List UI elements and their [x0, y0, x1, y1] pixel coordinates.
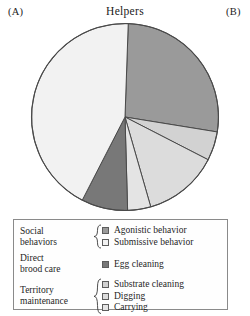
legend-group-label-line: Social — [20, 226, 92, 237]
pie-chart-svg — [30, 19, 220, 215]
curly-brace-icon — [92, 224, 102, 249]
legend-item-label: Digging — [114, 291, 145, 302]
legend-swatch — [102, 227, 109, 234]
legend-swatch — [102, 261, 109, 268]
legend-item-label: Agonistic behavior — [114, 225, 187, 236]
legend: SocialbehaviorsAgonistic behaviorSubmiss… — [13, 219, 228, 310]
legend-swatch — [102, 304, 109, 311]
legend-group-label-line: Territory — [20, 285, 92, 296]
curly-brace-icon — [92, 278, 102, 315]
legend-group-label-line: behaviors — [20, 237, 92, 248]
legend-group: Directbrood careEgg cleaning — [14, 253, 164, 275]
legend-group-label: Socialbehaviors — [14, 226, 92, 248]
page-title: Helpers — [0, 5, 250, 17]
legend-item[interactable]: Carrying — [102, 302, 184, 314]
pie-slice-group — [32, 24, 219, 211]
legend-group-label: Directbrood care — [14, 253, 92, 275]
legend-item[interactable]: Egg cleaning — [102, 258, 164, 270]
legend-item-label: Substrate cleaning — [114, 279, 184, 290]
legend-group-label-line: brood care — [20, 264, 92, 275]
legend-group: TerritorymaintenanceSubstrate cleaningDi… — [14, 278, 184, 315]
legend-swatch — [102, 293, 109, 300]
legend-item-label: Egg cleaning — [114, 259, 164, 270]
figure-panel-a: (A) (B) Helpers SocialbehaviorsAgonistic… — [0, 0, 250, 316]
legend-items: Substrate cleaningDiggingCarrying — [102, 279, 184, 314]
legend-item[interactable]: Agonistic behavior — [102, 225, 193, 237]
legend-group: SocialbehaviorsAgonistic behaviorSubmiss… — [14, 224, 193, 249]
legend-inner: SocialbehaviorsAgonistic behaviorSubmiss… — [14, 220, 227, 309]
legend-swatch — [102, 239, 109, 246]
pie-slice — [125, 24, 219, 132]
legend-item[interactable]: Submissive behavior — [102, 237, 193, 249]
legend-swatch — [102, 281, 109, 288]
legend-items: Agonistic behaviorSubmissive behavior — [102, 225, 193, 248]
legend-item-label: Carrying — [114, 302, 148, 313]
legend-item[interactable]: Substrate cleaning — [102, 279, 184, 291]
legend-group-label: Territorymaintenance — [14, 285, 92, 307]
legend-item-label: Submissive behavior — [114, 237, 193, 248]
legend-item[interactable]: Digging — [102, 291, 184, 303]
legend-items: Egg cleaning — [102, 258, 164, 270]
pie-chart — [30, 19, 220, 215]
legend-group-label-line: Direct — [20, 253, 92, 264]
legend-group-label-line: maintenance — [20, 296, 92, 307]
